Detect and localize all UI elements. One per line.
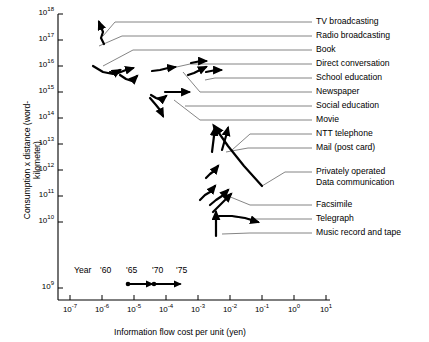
trajectories bbox=[93, 22, 262, 236]
traj-lower-rise-b bbox=[206, 166, 218, 178]
traj-tv-broadcasting bbox=[99, 22, 104, 44]
series-label: Movie bbox=[316, 114, 339, 124]
traj-lower-rise bbox=[200, 186, 215, 200]
series-label: Mail (post card) bbox=[316, 142, 375, 152]
series-label: Direct conversation bbox=[316, 58, 390, 68]
series-label: Music record and tape bbox=[316, 227, 401, 237]
series-label: Privately operated bbox=[316, 166, 385, 176]
x-tick-label: 10-7 bbox=[56, 305, 84, 314]
x-tick-label: 10-3 bbox=[184, 305, 212, 314]
traj-facsimile bbox=[210, 190, 228, 205]
series-label: Social education bbox=[316, 100, 379, 110]
x-tick-label: 101 bbox=[312, 305, 340, 314]
series-label: Book bbox=[316, 44, 336, 54]
legend-year-75: '75 bbox=[176, 265, 187, 275]
y-axis-ticks bbox=[58, 14, 63, 288]
series-label: School education bbox=[316, 72, 382, 82]
traj-movie bbox=[206, 70, 221, 72]
traj-direct-conversation bbox=[120, 75, 137, 81]
traj-rise-b bbox=[212, 128, 215, 152]
y-tick-label: 1018 bbox=[22, 8, 54, 17]
traj-social-education bbox=[188, 67, 206, 75]
year-legend-scale bbox=[126, 282, 180, 287]
y-tick-label: 1017 bbox=[22, 34, 54, 43]
x-tick-label: 10-6 bbox=[88, 305, 116, 314]
y-tick-label: 1013 bbox=[22, 138, 54, 147]
y-tick-label: 1016 bbox=[22, 60, 54, 69]
leader-lines bbox=[99, 22, 312, 234]
series-label: Telegraph bbox=[316, 213, 354, 223]
series-label: NTT telephone bbox=[316, 128, 373, 138]
x-tick-label: 10-2 bbox=[216, 305, 244, 314]
y-tick-label: 1014 bbox=[22, 112, 54, 121]
y-tick-label: 1015 bbox=[22, 86, 54, 95]
traj-book bbox=[110, 68, 133, 73]
x-tick-label: 100 bbox=[280, 305, 308, 314]
y-tick-label: 1012 bbox=[22, 164, 54, 173]
chart-figure: Consumption x distance (word-kilometer) … bbox=[0, 0, 429, 342]
series-label: Facsimile bbox=[316, 199, 352, 209]
legend-year-70: '70 bbox=[152, 265, 163, 275]
series-label: Data communication bbox=[316, 177, 394, 187]
axis-lines bbox=[58, 14, 330, 300]
legend-year-65: '65 bbox=[126, 265, 137, 275]
traj-private-data-comm bbox=[214, 126, 262, 186]
traj-newspaper bbox=[191, 61, 206, 63]
x-axis-title: Information flow cost per unit (yen) bbox=[0, 327, 360, 337]
legend-year-word: Year bbox=[74, 265, 91, 275]
series-label: TV broadcasting bbox=[316, 16, 379, 26]
legend-year-60: '60 bbox=[100, 265, 111, 275]
x-tick-label: 10-1 bbox=[248, 305, 276, 314]
x-tick-label: 10-4 bbox=[152, 305, 180, 314]
y-tick-label: 109 bbox=[22, 282, 54, 291]
series-label: Radio broadcasting bbox=[316, 30, 390, 40]
traj-school-education bbox=[152, 67, 175, 71]
x-tick-label: 10-5 bbox=[120, 305, 148, 314]
y-tick-label: 1010 bbox=[22, 216, 54, 225]
traj-ntt-telephone bbox=[151, 95, 166, 100]
x-axis-ticks bbox=[70, 295, 326, 300]
series-label: Newspaper bbox=[316, 86, 359, 96]
y-tick-label: 1011 bbox=[22, 190, 54, 199]
